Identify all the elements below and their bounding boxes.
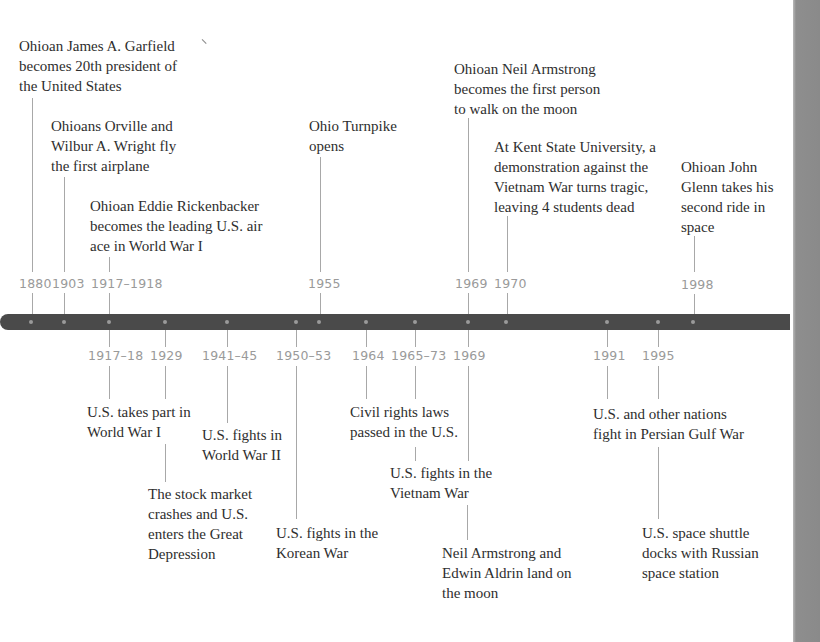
- connector-1964-lower: [366, 366, 367, 399]
- page-edge-shadow: [793, 0, 820, 642]
- connector-1965-upper: [415, 330, 416, 347]
- year-label-1903: 1903: [52, 277, 85, 291]
- event-label-moon-landing: Neil Armstrong and Edwin Aldrin land on …: [442, 543, 572, 603]
- timeline-dot-1880: [29, 320, 33, 324]
- event-label-rickenbacker: Ohioan Eddie Rickenbacker becomes the le…: [90, 196, 262, 256]
- connector-1970-upper: [507, 216, 508, 272]
- year-label-1995: 1995: [642, 349, 675, 363]
- year-label-1964: 1964: [352, 349, 385, 363]
- connector-1965-mid: [415, 366, 416, 399]
- event-label-armstrong: Ohioan Neil Armstrong becomes the first …: [454, 59, 600, 119]
- event-label-glenn: Ohioan John Glenn takes his second ride …: [681, 157, 773, 237]
- connector-1991-upper: [607, 330, 608, 347]
- year-label-1965-73: 1965–73: [391, 349, 446, 363]
- event-label-turnpike: Ohio Turnpike opens: [309, 116, 397, 156]
- connector-1965-lower: [415, 447, 416, 461]
- connector-1880-upper: [32, 98, 33, 272]
- timeline-dot-1969: [466, 320, 470, 324]
- connector-1917-18-upper: [109, 330, 110, 347]
- event-label-vietnam: U.S. fights in the Vietnam War: [390, 463, 492, 503]
- connector-1950-upper: [296, 330, 297, 347]
- timeline-dot-1970: [504, 320, 508, 324]
- timeline-dot-1955: [317, 320, 321, 324]
- event-label-korea: U.S. fights in the Korean War: [276, 523, 378, 563]
- timeline-dot-1995: [656, 320, 660, 324]
- timeline-dot-1964: [364, 320, 368, 324]
- connector-1969-upper-lower: [468, 293, 469, 314]
- connector-1955-upper: [320, 157, 321, 272]
- connector-1995-lower: [658, 447, 659, 519]
- connector-1991-lower: [607, 366, 608, 399]
- connector-1969-upper: [468, 118, 469, 272]
- event-label-garfield: Ohioan James A. Garfield becomes 20th pr…: [19, 36, 177, 96]
- connector-1995-upper: [658, 330, 659, 347]
- year-label-1969-below: 1969: [453, 349, 486, 363]
- event-label-civil-rights: Civil rights laws passed in the U.S.: [350, 402, 458, 442]
- connector-1970-lower: [507, 293, 508, 314]
- connector-1941-lower: [227, 366, 228, 423]
- timeline-dot-1941: [225, 320, 229, 324]
- event-label-depression: The stock market crashes and U.S. enters…: [148, 484, 252, 564]
- event-label-kent-state: At Kent State University, a demonstratio…: [494, 137, 656, 217]
- year-label-1955: 1955: [308, 277, 341, 291]
- event-label-space-shuttle: U.S. space shuttle docks with Russian sp…: [642, 523, 759, 583]
- year-label-1941-45: 1941–45: [202, 349, 257, 363]
- timeline-dot-1998: [691, 320, 695, 324]
- connector-1917-lower: [109, 293, 110, 314]
- timeline-bar: [0, 314, 790, 330]
- year-label-1917-1918: 1917–1918: [91, 277, 163, 291]
- connector-1995-mid: [658, 366, 659, 399]
- connector-1964-upper: [366, 330, 367, 347]
- year-label-1970: 1970: [494, 277, 527, 291]
- connector-1917-18-lower: [109, 366, 110, 399]
- timeline-dot-1991: [605, 320, 609, 324]
- connector-1929-lower: [165, 444, 166, 482]
- connector-1903-upper: [64, 177, 65, 272]
- timeline-dot-1929: [163, 320, 167, 324]
- connector-1941-upper: [227, 330, 228, 347]
- year-label-1950-53: 1950–53: [276, 349, 331, 363]
- year-label-1917-18: 1917–18: [88, 349, 143, 363]
- connector-1903-lower: [64, 293, 65, 314]
- year-label-1880: 1880: [19, 277, 52, 291]
- event-label-wright: Ohioans Orville and Wilbur A. Wright fly…: [51, 116, 176, 176]
- connector-1917-upper: [109, 257, 110, 272]
- connector-1955-lower: [320, 293, 321, 314]
- connector-1929-upper: [165, 330, 166, 347]
- year-label-1929: 1929: [150, 349, 183, 363]
- connector-1969-below-upper: [468, 330, 469, 347]
- timeline-dot-1950: [294, 320, 298, 324]
- event-label-gulf-war: U.S. and other nations fight in Persian …: [593, 404, 744, 444]
- timeline-dot-1903: [62, 320, 66, 324]
- year-label-1991: 1991: [593, 349, 626, 363]
- connector-1998-lower: [694, 294, 695, 314]
- scan-mark: [201, 39, 206, 44]
- connector-1880-lower: [32, 293, 33, 314]
- connector-1998-upper: [694, 236, 695, 272]
- event-label-wwi: U.S. takes part in World War I: [87, 402, 191, 442]
- year-label-1998: 1998: [681, 278, 714, 292]
- connector-1950-lower: [296, 366, 297, 519]
- timeline-dot-1965: [413, 320, 417, 324]
- event-label-wwii: U.S. fights in World War II: [202, 425, 282, 465]
- year-label-1969-above: 1969: [455, 277, 488, 291]
- timeline-dot-1917: [107, 320, 111, 324]
- connector-1969-below-mid: [468, 366, 469, 461]
- connector-1969-below-lower: [467, 505, 468, 540]
- connector-1929-mid: [165, 366, 166, 399]
